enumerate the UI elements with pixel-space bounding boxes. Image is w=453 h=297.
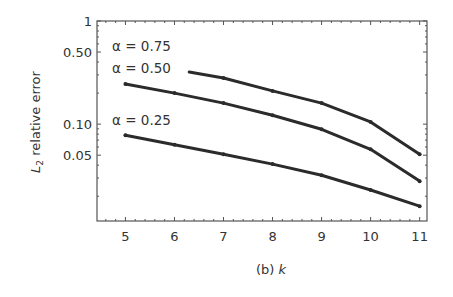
data-point [222,76,226,80]
caption-variable: k [279,262,287,277]
y-tick-label: 0.05 [63,148,92,163]
x-tick-label: 11 [411,229,428,244]
data-point [271,162,275,166]
series-lines [123,72,421,208]
data-point [418,179,422,183]
x-tick-label: 5 [121,229,129,244]
data-point [123,133,127,137]
data-point [222,101,226,105]
y-tick-label: 0.10 [63,117,92,132]
data-point [369,120,373,124]
series-label-alpha-0-75: α = 0.75 [112,38,171,54]
x-tick-label: 7 [219,229,227,244]
data-point [271,113,275,117]
x-tick-label: 6 [170,229,178,244]
x-tick-label: 9 [317,229,325,244]
caption-prefix: (b) [256,262,279,277]
data-point [320,101,324,105]
y-tick-label: 1 [84,14,92,29]
y-axis-label-rest: relative error [28,70,43,159]
data-point [123,82,127,86]
series-label-alpha-0-25: α = 0.25 [112,112,171,128]
y-tick-label: 0.50 [63,45,92,60]
series-label-alpha-0-50: α = 0.50 [112,60,171,76]
x-axis: 567891011 [106,21,428,244]
series-line-1 [125,84,419,181]
data-point [271,89,275,93]
x-tick-label: 8 [268,229,276,244]
data-point [222,152,226,156]
series-labels: α = 0.75 α = 0.50 α = 0.25 [112,38,171,128]
data-point [172,143,176,147]
data-point [418,204,422,208]
series-line-2 [125,135,419,206]
series-line-0 [189,72,419,154]
data-point [369,147,373,151]
x-axis-caption: (b) k [256,262,287,277]
data-point [418,152,422,156]
data-point [369,188,373,192]
data-point [172,91,176,95]
x-tick-label: 10 [362,229,379,244]
chart: 567891011 10.500.100.05 α = 0.75 α = 0.5… [0,0,453,297]
data-point [320,173,324,177]
y-axis-label-main: L [28,166,43,173]
y-axis-label: L2 relative error [28,70,45,172]
data-point [320,127,324,131]
